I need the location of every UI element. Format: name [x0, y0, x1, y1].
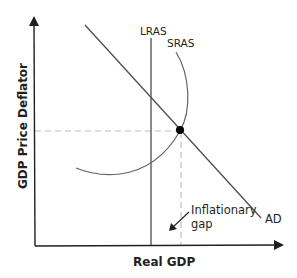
ad-as-diagram: LRAS SRAS AD Inflationary gap Real GDP G…	[0, 0, 297, 278]
inflationary-gap-label: Inflationary gap	[191, 203, 257, 231]
ad-line	[85, 25, 261, 218]
inflationary-gap-line1: Inflationary	[191, 203, 257, 217]
lras-label: LRAS	[140, 26, 167, 37]
ad-label: AD	[265, 214, 282, 226]
equilibrium-point	[176, 126, 184, 134]
diagram-canvas	[0, 0, 297, 278]
sras-curve	[76, 52, 188, 175]
x-axis-arrow-icon	[274, 240, 284, 250]
x-axis-label: Real GDP	[133, 256, 195, 268]
y-axis-label: GDP Price Deflator	[17, 63, 29, 189]
arrow-down-left-icon	[169, 212, 189, 231]
y-axis-arrow-icon	[29, 16, 39, 26]
x-axis	[35, 245, 276, 246]
y-axis	[34, 24, 35, 246]
inflationary-gap-line2: gap	[191, 217, 257, 231]
sras-label: SRAS	[167, 38, 194, 49]
